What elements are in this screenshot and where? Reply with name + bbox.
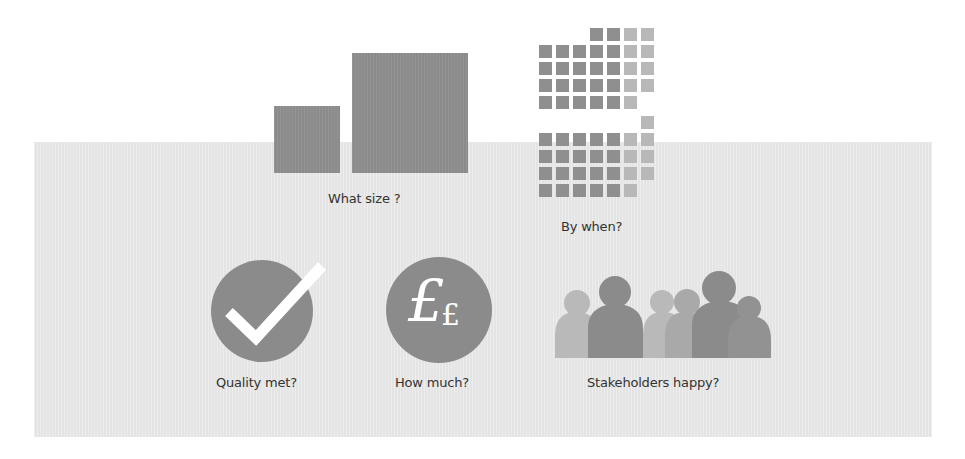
stakeholders-label: Stakeholders happy? [587,375,719,390]
people-group-icon [0,0,965,459]
person-icon [588,276,643,358]
